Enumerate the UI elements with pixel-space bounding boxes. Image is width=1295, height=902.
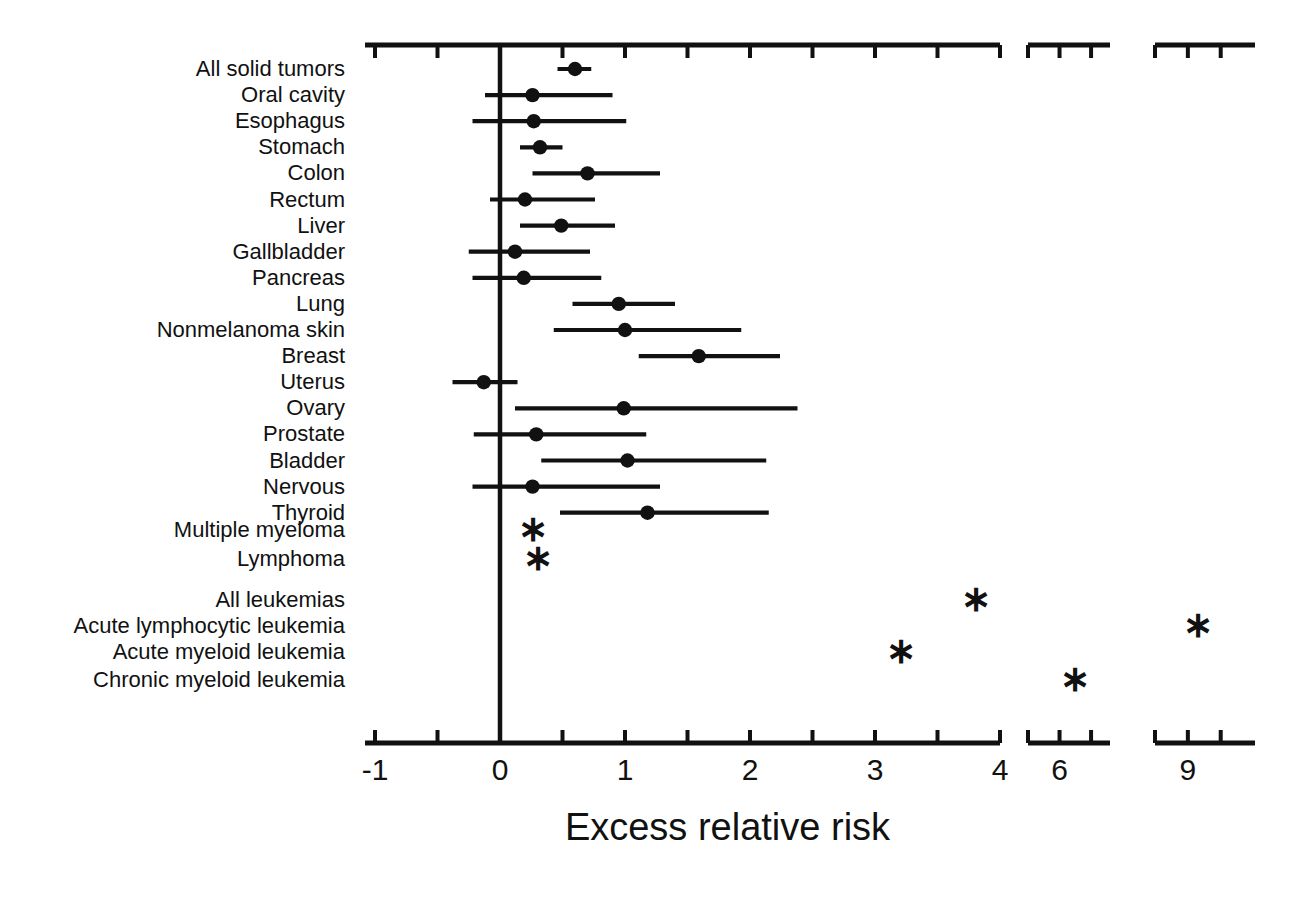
point-estimate-marker (554, 218, 568, 232)
point-estimate-marker (617, 401, 631, 415)
censored-marker-asterisk: ∗ (1183, 604, 1213, 645)
point-estimate-marker (640, 506, 654, 520)
point-estimate-marker (580, 166, 594, 180)
censored-marker-asterisk: ∗ (1060, 658, 1090, 699)
data-series-group: ∗∗∗∗∗∗ (453, 62, 1213, 699)
point-estimate-marker (525, 88, 539, 102)
point-estimate-marker (529, 427, 543, 441)
row-label: Pancreas (252, 267, 345, 289)
row-label: Multiple myeloma (174, 519, 345, 541)
row-label: Acute myeloid leukemia (113, 641, 345, 663)
x-tick-label: -1 (362, 755, 389, 785)
point-estimate-marker (533, 140, 547, 154)
x-tick-label: 1 (617, 755, 634, 785)
x-axis-title: Excess relative risk (0, 806, 1295, 849)
row-label: All leukemias (215, 589, 345, 611)
point-estimate-marker (612, 297, 626, 311)
row-label: Liver (297, 215, 345, 237)
point-estimate-marker (568, 62, 582, 76)
row-label: Prostate (263, 423, 345, 445)
row-label: Gallbladder (232, 241, 345, 263)
row-label: Nervous (263, 476, 345, 498)
row-label: Ovary (286, 397, 345, 419)
row-label: Oral cavity (241, 84, 345, 106)
censored-marker-asterisk: ∗ (961, 578, 991, 619)
point-estimate-marker (517, 271, 531, 285)
row-label: All solid tumors (196, 58, 345, 80)
row-label: Lymphoma (237, 548, 345, 570)
x-tick-label: 4 (992, 755, 1009, 785)
row-label: Acute lymphocytic leukemia (74, 615, 345, 637)
x-tick-label: 2 (742, 755, 759, 785)
row-label: Rectum (269, 189, 345, 211)
point-estimate-marker (527, 114, 541, 128)
point-estimate-marker (692, 349, 706, 363)
row-label: Chronic myeloid leukemia (93, 669, 345, 691)
point-estimate-marker (477, 375, 491, 389)
censored-marker-asterisk: ∗ (523, 537, 553, 578)
point-estimate-marker (620, 453, 634, 467)
point-estimate-marker (508, 245, 522, 259)
row-label: Stomach (258, 136, 345, 158)
censored-marker-asterisk: ∗ (886, 630, 916, 671)
row-label: Uterus (280, 371, 345, 393)
x-tick-label: 6 (1051, 755, 1068, 785)
point-estimate-marker (518, 192, 532, 206)
axes-group (365, 45, 1255, 743)
x-tick-label: 3 (867, 755, 884, 785)
row-labels-column: All solid tumorsOral cavityEsophagusStom… (0, 0, 345, 902)
point-estimate-marker (618, 323, 632, 337)
forest-plot-figure: ∗∗∗∗∗∗ All solid tumorsOral cavityEsopha… (0, 0, 1295, 902)
row-label: Lung (296, 293, 345, 315)
row-label: Colon (288, 162, 345, 184)
row-label: Breast (281, 345, 345, 367)
row-label: Nonmelanoma skin (157, 319, 345, 341)
x-tick-label: 9 (1180, 755, 1197, 785)
x-tick-label: 0 (492, 755, 509, 785)
point-estimate-marker (525, 479, 539, 493)
row-label: Bladder (269, 450, 345, 472)
row-label: Esophagus (235, 110, 345, 132)
x-axis-title-text: Excess relative risk (565, 806, 890, 849)
